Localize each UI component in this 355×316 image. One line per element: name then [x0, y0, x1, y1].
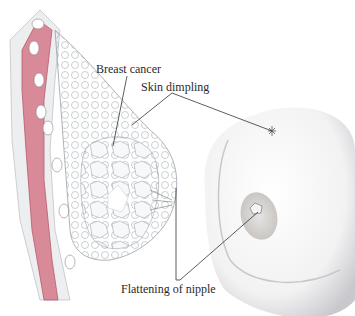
flattening-of-nipple-label: Flattening of nipple — [121, 283, 216, 295]
anatomy-illustration — [0, 0, 355, 316]
breast-external-view — [204, 107, 355, 316]
illustration-canvas: Breast cancer Skin dimpling Flattening o… — [0, 0, 355, 316]
breast-cancer-label: Breast cancer — [96, 63, 161, 75]
skin-dimpling-label: Skin dimpling — [141, 81, 209, 93]
